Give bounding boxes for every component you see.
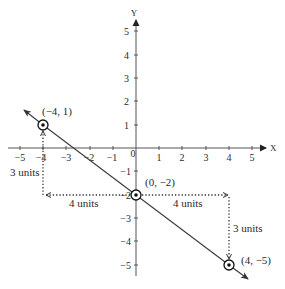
run-label-right: 4 units: [173, 197, 203, 209]
x-tick-label: 5: [250, 152, 255, 163]
y-axis-label: Y: [131, 8, 138, 18]
y-axis: Y 5 4 3 2 1 −1 −2 −3 −4 −5: [120, 8, 138, 276]
x-tick-label: 3: [204, 152, 209, 163]
point-neg4-1: (−4, 1): [38, 105, 72, 130]
y-tick-label: 3: [124, 73, 129, 84]
x-axis-label: X: [270, 143, 277, 153]
x-tick-label: −1: [107, 152, 118, 163]
coordinate-plane-diagram: X −5 −4 −3 −2 −1 0 1 2 3 4 5: [0, 0, 285, 289]
drop-label-right: 3 units: [233, 222, 263, 234]
run-label-left: 4 units: [69, 197, 99, 209]
x-tick-label: 0: [131, 148, 136, 159]
x-tick-label: 1: [157, 152, 162, 163]
point-label: (0, −2): [145, 176, 175, 189]
point-label: (4, −5): [241, 254, 271, 267]
x-tick-label: 4: [227, 152, 232, 163]
x-tick-label: −3: [61, 152, 72, 163]
y-tick-label: −1: [120, 166, 131, 177]
x-tick-labels: −5 −4 −3 −2 −1 0 1 2 3 4 5: [15, 148, 255, 163]
y-tick-label: −3: [120, 213, 131, 224]
point-label: (−4, 1): [42, 105, 72, 118]
y-tick-label: 5: [124, 26, 129, 37]
x-tick-label: −4: [36, 152, 47, 163]
y-tick-label: 2: [124, 96, 129, 107]
point-4-neg5: (4, −5): [224, 254, 271, 270]
point-0-neg2: (0, −2): [131, 176, 175, 200]
y-tick-label: −5: [120, 260, 131, 271]
rise-label-left: 3 units: [10, 166, 40, 178]
x-tick-label: 2: [180, 152, 185, 163]
x-axis: X −5 −4 −3 −2 −1 0 1 2 3 4 5: [8, 143, 277, 163]
y-tick-label: 1: [124, 120, 129, 131]
y-tick-label: 4: [124, 50, 129, 61]
y-tick-label: −4: [120, 236, 131, 247]
x-tick-label: −5: [15, 152, 26, 163]
